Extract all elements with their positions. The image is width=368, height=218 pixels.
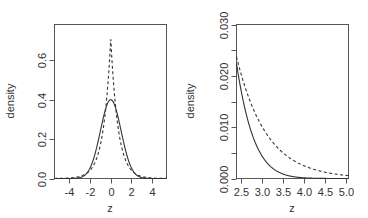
left-density-plot: -4-2024 0.00.20.40.6 z density — [4, 25, 167, 215]
x-tick-label: -4 — [65, 186, 75, 198]
y-tick-label: 0.2 — [36, 132, 48, 147]
x-tick-label: -2 — [86, 186, 96, 198]
x-tick-label: 2.5 — [234, 186, 249, 198]
x-tick-label: 2 — [128, 186, 134, 198]
x-tick-label: 0 — [108, 186, 114, 198]
laplace-curve — [237, 57, 349, 176]
x-tick-label: 4.0 — [297, 186, 312, 198]
right-tail-density-plot: 2.53.03.54.04.55.0 0.0000.0100.0200.030 … — [184, 12, 354, 214]
y-axis: 0.0000.0100.0200.030 — [218, 12, 237, 194]
y-tick-label: 0.000 — [218, 166, 230, 194]
y-tick-label: 0.4 — [36, 93, 48, 108]
chart-canvas: -4-2024 0.00.20.40.6 z density 2.53.03.5… — [0, 0, 368, 218]
y-tick-label: 0.0 — [36, 172, 48, 187]
plot-frame — [55, 25, 167, 179]
y-tick-label: 0.020 — [218, 63, 230, 91]
x-tick-label: 4 — [149, 186, 155, 198]
x-tick-label: 3.5 — [276, 186, 291, 198]
plot-frame — [237, 25, 349, 179]
x-axis-label: z — [107, 202, 113, 214]
normal-curve — [237, 64, 349, 179]
x-tick-label: 5.0 — [339, 186, 354, 198]
normal-curve — [55, 100, 167, 179]
y-axis-label: density — [184, 83, 196, 118]
x-axis: 2.53.03.54.04.55.0 — [234, 179, 354, 198]
x-axis: -4-2024 — [65, 179, 156, 198]
y-tick-label: 0.6 — [36, 53, 48, 68]
x-tick-label: 3.0 — [255, 186, 270, 198]
y-tick-label: 0.010 — [218, 114, 230, 142]
y-axis-label: density — [4, 83, 16, 118]
x-axis-label: z — [289, 202, 295, 214]
laplace-curve — [55, 39, 167, 178]
y-axis: 0.00.20.40.6 — [36, 53, 55, 187]
x-tick-label: 4.5 — [318, 186, 333, 198]
y-tick-label: 0.030 — [218, 12, 230, 40]
